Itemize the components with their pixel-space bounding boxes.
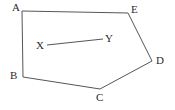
vertex-label-e: E — [131, 4, 138, 15]
segment-xy-line — [47, 39, 103, 45]
vertex-label-d: D — [156, 55, 164, 66]
figure-canvas — [0, 0, 175, 110]
point-label-x: X — [36, 40, 44, 51]
point-label-y: Y — [105, 33, 113, 44]
vertex-label-a: A — [12, 2, 20, 13]
geometry-figure: A E D C B X Y — [0, 0, 175, 110]
vertex-label-b: B — [10, 70, 17, 81]
vertex-label-c: C — [96, 92, 103, 103]
